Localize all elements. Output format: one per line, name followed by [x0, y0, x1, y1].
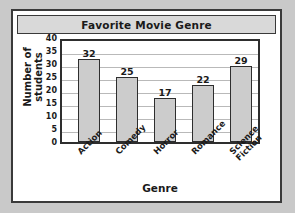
y-axis-tick-labels: 40 35 30 25 20 15 10 5 0 — [13, 39, 57, 144]
bar-value-action: 32 — [75, 48, 103, 59]
y-tick-label: 25 — [13, 74, 57, 82]
y-tick-label: 35 — [13, 48, 57, 56]
plot-area: 32 25 17 22 29 — [60, 39, 260, 144]
y-tick-label: 5 — [13, 126, 57, 134]
bar-value-comedy: 25 — [113, 66, 141, 77]
x-axis-title: Genre — [60, 182, 260, 194]
y-tick-label: 15 — [13, 100, 57, 108]
y-tick-label: 0 — [13, 139, 57, 147]
bar-value-horror: 17 — [151, 87, 179, 98]
y-tick-label: 40 — [13, 35, 57, 43]
chart-card: Favorite Movie Genre Number of students … — [11, 9, 282, 203]
y-tick-label: 10 — [13, 113, 57, 121]
chart-title-band: Favorite Movie Genre — [17, 15, 276, 34]
bar-value-romance: 22 — [189, 74, 217, 85]
y-tick-label: 20 — [13, 87, 57, 95]
bar-value-science-fiction: 29 — [227, 55, 255, 66]
plot-wrapper: Number of students 40 35 30 25 20 15 10 … — [13, 34, 280, 201]
chart-title: Favorite Movie Genre — [81, 19, 212, 31]
y-tick-label: 30 — [13, 61, 57, 69]
